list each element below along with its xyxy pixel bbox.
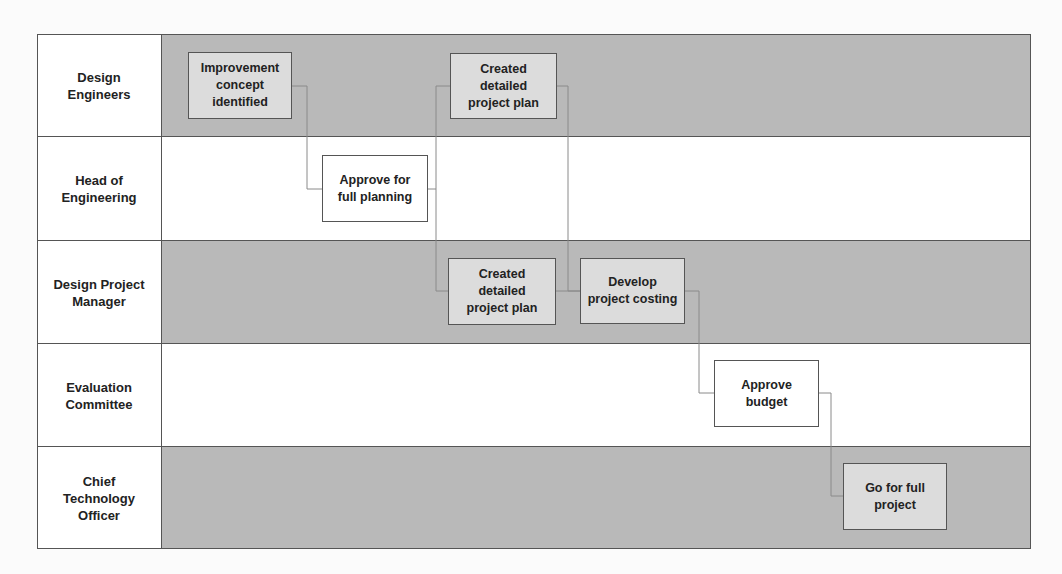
lane-label-design-engineers: Design Engineers xyxy=(37,34,162,137)
lane-divider xyxy=(37,343,1031,344)
lane-body-head-of-engineering xyxy=(162,137,1031,241)
lane-label-chief-technology-officer: Chief Technology Officer xyxy=(37,447,162,549)
lane-body-design-engineers xyxy=(162,34,1031,137)
lane-divider xyxy=(37,240,1031,241)
swimlane-diagram: Design Engineers Head of Engineering Des… xyxy=(0,0,1062,574)
lane-head-of-engineering: Head of Engineering xyxy=(37,137,1031,241)
node-created-detailed-project-plan-engineers: Created detailed project plan xyxy=(450,53,557,119)
lane-evaluation-committee: Evaluation Committee xyxy=(37,344,1031,447)
node-develop-project-costing: Develop project costing xyxy=(580,258,685,324)
lane-divider xyxy=(37,446,1031,447)
lane-divider xyxy=(37,136,1031,137)
node-approve-budget: Approve budget xyxy=(714,360,819,427)
lane-label-evaluation-committee: Evaluation Committee xyxy=(37,344,162,447)
node-go-for-full-project: Go for full project xyxy=(843,463,947,530)
node-improvement-concept-identified: Improvement concept identified xyxy=(188,52,292,119)
node-created-detailed-project-plan-manager: Created detailed project plan xyxy=(448,258,556,325)
lane-label-head-of-engineering: Head of Engineering xyxy=(37,137,162,241)
lane-body-evaluation-committee xyxy=(162,344,1031,447)
node-approve-for-full-planning: Approve for full planning xyxy=(322,155,428,222)
lane-label-design-project-manager: Design Project Manager xyxy=(37,241,162,344)
